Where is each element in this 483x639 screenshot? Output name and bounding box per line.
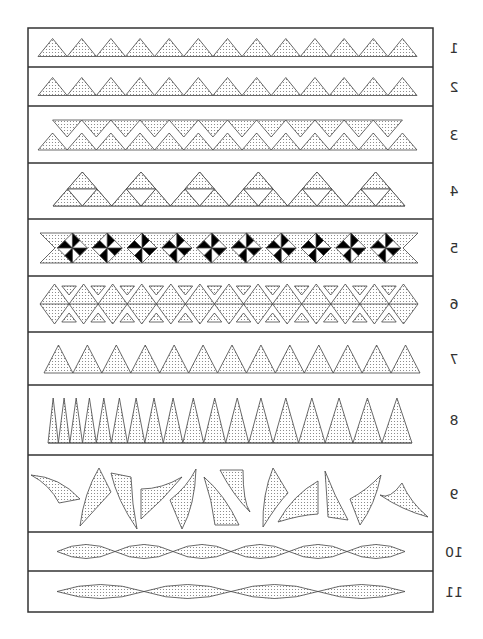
small-triangle-up xyxy=(353,313,368,322)
small-triangle-up xyxy=(294,313,309,322)
row-label: 8 xyxy=(440,412,468,428)
spike xyxy=(226,398,249,443)
lens-shape xyxy=(231,545,289,559)
curved-shard xyxy=(170,469,196,529)
row-10-pattern xyxy=(57,545,405,559)
spike xyxy=(273,398,298,443)
row-label: 1 xyxy=(440,40,468,56)
curved-shard xyxy=(325,471,348,520)
curved-shard xyxy=(380,483,428,517)
triangle xyxy=(242,78,271,96)
triangle xyxy=(184,78,213,96)
triangle xyxy=(388,39,417,57)
lens-shape xyxy=(318,585,405,599)
triangle-up xyxy=(388,133,417,150)
curved-shard xyxy=(80,468,111,526)
triangle-down xyxy=(53,120,82,137)
small-triangle-up xyxy=(91,313,106,322)
small-triangle-up xyxy=(382,313,397,322)
triangle xyxy=(155,39,184,57)
triangle-up xyxy=(213,133,242,150)
small-triangle-down xyxy=(120,286,135,295)
spike xyxy=(83,398,97,443)
lens-shape xyxy=(289,545,347,559)
row-5-pattern xyxy=(40,233,418,263)
small-triangle-down xyxy=(178,286,193,295)
row-11-pattern xyxy=(57,585,405,599)
row-label: 2 xyxy=(440,79,468,95)
triangle-down xyxy=(198,120,227,137)
triangle xyxy=(102,345,131,373)
small-triangle-up xyxy=(62,313,77,322)
curved-shard xyxy=(31,475,80,503)
lens-shape xyxy=(347,545,405,559)
lens-shape xyxy=(57,545,115,559)
triangle xyxy=(300,39,329,57)
triangle xyxy=(388,78,417,96)
row-4-pattern xyxy=(53,172,405,206)
triangle xyxy=(67,78,96,96)
triangle xyxy=(359,78,388,96)
small-triangle-down xyxy=(265,286,280,295)
triangle xyxy=(271,78,300,96)
curved-shard xyxy=(350,475,381,525)
triangle xyxy=(189,345,218,373)
lens-shape xyxy=(57,585,144,599)
lens-shape xyxy=(173,545,231,559)
spike xyxy=(163,398,183,443)
spike xyxy=(145,398,163,443)
small-triangle-down xyxy=(62,286,77,295)
triangle xyxy=(131,345,160,373)
triangle-up xyxy=(242,133,271,150)
spike xyxy=(249,398,273,443)
triangle xyxy=(155,78,184,96)
triangle xyxy=(213,78,242,96)
triangle xyxy=(96,39,125,57)
triangle xyxy=(213,39,242,57)
triangle xyxy=(271,39,300,57)
spike xyxy=(204,398,226,443)
top-sub-triangle xyxy=(302,172,331,189)
spike xyxy=(127,398,144,443)
row-label: 4 xyxy=(440,183,468,199)
triangle-down xyxy=(286,120,315,137)
triangle xyxy=(330,78,359,96)
row-label: 11 xyxy=(440,584,468,600)
small-triangle-down xyxy=(236,286,251,295)
top-sub-triangle xyxy=(126,172,155,189)
triangle-up xyxy=(271,133,300,150)
top-sub-triangle xyxy=(244,172,273,189)
spike xyxy=(58,398,70,443)
small-triangle-down xyxy=(91,286,106,295)
row-label: 3 xyxy=(440,127,468,143)
triangle xyxy=(246,345,275,373)
row-6-pattern xyxy=(40,284,418,324)
triangle-up xyxy=(330,133,359,150)
triangle-down xyxy=(344,120,373,137)
triangle-up xyxy=(125,133,154,150)
triangle xyxy=(38,78,67,96)
triangle-down xyxy=(111,120,140,137)
triangle-up xyxy=(300,133,329,150)
triangle-up xyxy=(96,133,125,150)
row-1-pattern xyxy=(38,39,417,57)
triangle xyxy=(275,345,304,373)
spike xyxy=(48,398,58,443)
small-triangle-down xyxy=(382,286,397,295)
small-triangle-up xyxy=(324,313,339,322)
row-7-pattern xyxy=(44,345,420,373)
triangle-down xyxy=(228,120,257,137)
triangle-down xyxy=(315,120,344,137)
small-triangle-up xyxy=(265,313,280,322)
triangle-down xyxy=(82,120,111,137)
triangle-up xyxy=(184,133,213,150)
pattern-diagram xyxy=(0,0,483,639)
lens-shape xyxy=(115,545,173,559)
triangle xyxy=(44,345,73,373)
spike xyxy=(353,398,382,443)
triangle-up xyxy=(359,133,388,150)
spike xyxy=(382,398,412,443)
triangle xyxy=(242,39,271,57)
small-triangle-up xyxy=(207,313,222,322)
small-triangle-up xyxy=(236,313,251,322)
